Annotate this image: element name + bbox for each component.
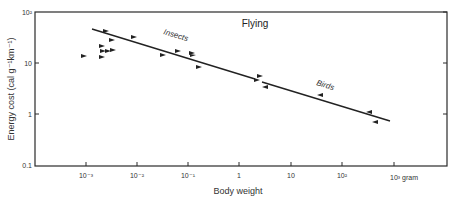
x-tick-10: 10 bbox=[287, 172, 295, 179]
x-tick-100: 10² bbox=[337, 172, 348, 179]
y-tick-100: 10² bbox=[22, 9, 33, 16]
x-axis-title: Body weight bbox=[213, 186, 263, 196]
data-point bbox=[109, 38, 115, 42]
birds-label: Birds bbox=[315, 78, 335, 92]
plot-frame bbox=[35, 12, 447, 166]
data-point bbox=[99, 44, 105, 48]
x-tick-1e-2: 10⁻² bbox=[130, 172, 145, 179]
data-point bbox=[257, 74, 263, 78]
data-point bbox=[196, 65, 202, 69]
data-point bbox=[160, 53, 166, 57]
x-tick-1e-3: 10⁻³ bbox=[79, 172, 94, 179]
data-point bbox=[103, 29, 109, 33]
data-point bbox=[131, 35, 137, 39]
x-tick-1: 1 bbox=[237, 172, 241, 179]
chart-canvas: 10² 10 1 0.1 10⁻³ 10⁻² 10⁻¹ 1 10 10² 10³… bbox=[0, 0, 453, 200]
y-axis-title: Energy cost (cal g⁻¹km⁻¹) bbox=[6, 37, 16, 140]
y-tick-10: 10 bbox=[24, 60, 32, 67]
data-point bbox=[317, 93, 323, 97]
data-point bbox=[262, 85, 268, 89]
insects-label: Insects bbox=[162, 27, 189, 43]
x-tick-1000: 10³ gram bbox=[390, 174, 418, 182]
data-point bbox=[254, 78, 260, 82]
data-point bbox=[175, 49, 181, 53]
data-point bbox=[99, 55, 105, 59]
x-axis bbox=[86, 162, 394, 166]
data-point bbox=[372, 120, 378, 124]
data-point bbox=[110, 48, 116, 52]
y-tick-0-1: 0.1 bbox=[22, 162, 32, 169]
x-tick-1e-1: 10⁻¹ bbox=[181, 172, 196, 179]
y-tick-1: 1 bbox=[28, 111, 32, 118]
data-point bbox=[81, 54, 87, 58]
data-point bbox=[190, 54, 196, 57]
chart-title: Flying bbox=[242, 18, 269, 29]
